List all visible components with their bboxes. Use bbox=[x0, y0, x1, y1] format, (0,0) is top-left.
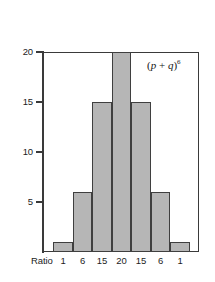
x-axis-labels: 1615201561 bbox=[0, 256, 215, 270]
y-axis-label: 10 bbox=[0, 147, 33, 157]
x-axis-label: 1 bbox=[166, 256, 194, 266]
y-axis-label: 20 bbox=[0, 47, 33, 57]
formula-annotation: (p + q)6 bbox=[147, 60, 181, 71]
annotation-plus-operator: + bbox=[156, 59, 168, 71]
y-axis-tick bbox=[36, 151, 43, 153]
y-axis-tick bbox=[36, 101, 43, 103]
bar bbox=[170, 242, 190, 252]
bar bbox=[151, 192, 171, 252]
bar bbox=[131, 102, 151, 252]
y-axis-label: 15 bbox=[0, 97, 33, 107]
y-axis-tick bbox=[36, 51, 43, 53]
bar bbox=[92, 102, 112, 252]
bar bbox=[73, 192, 93, 252]
y-axis-label: 5 bbox=[0, 197, 33, 207]
annotation-exponent: 6 bbox=[177, 58, 181, 66]
bar bbox=[53, 242, 73, 252]
y-axis-tick bbox=[36, 201, 43, 203]
histogram-figure: 5101520 Ratio 1615201561 (p + q)6 bbox=[0, 0, 215, 282]
bar bbox=[112, 52, 132, 252]
